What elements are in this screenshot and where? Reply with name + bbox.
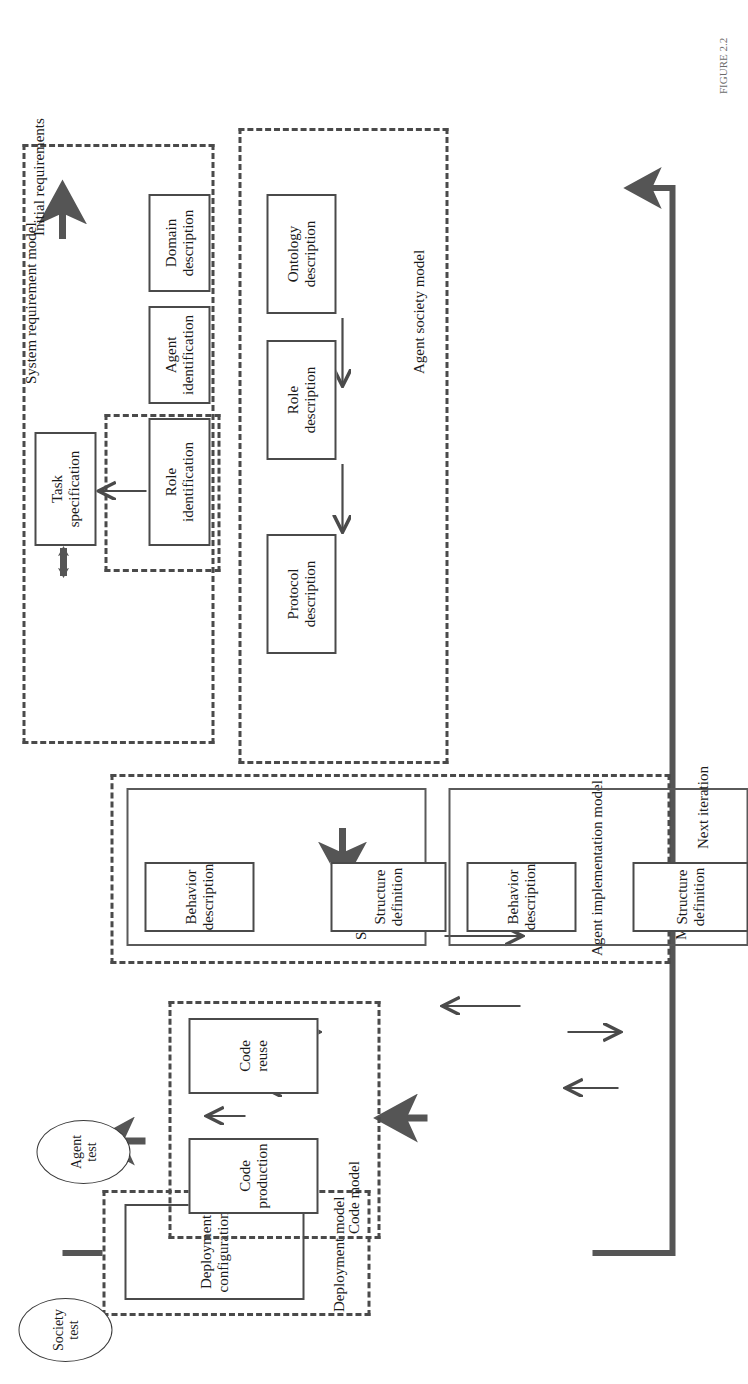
node-code-production[interactable]: Code production [188, 1138, 318, 1214]
group-label-system-requirement-model: System requirement model [22, 222, 39, 384]
node-code-reuse[interactable]: Code reuse [188, 1018, 318, 1094]
node-agent-identification[interactable]: Agent identification [148, 306, 210, 404]
group-label-code-model: Code model [345, 1161, 362, 1234]
node-ma-structure-definition[interactable]: Structure definition [632, 862, 748, 932]
node-ontology-description[interactable]: Ontology description [266, 194, 336, 314]
node-domain-description[interactable]: Domain description [148, 194, 210, 292]
ellipse-agent-test: Agent test [36, 1120, 130, 1184]
label-next-iteration: Next iteration [694, 766, 711, 849]
label-initial-requirements: Initial requirements [30, 118, 47, 236]
arrow-next-iteration [592, 188, 672, 1253]
figure-caption: FIGURE 2.2 [716, 38, 728, 94]
group-label-agent-society-model: Agent society model [410, 250, 427, 374]
node-protocol-description[interactable]: Protocol description [266, 534, 336, 654]
node-ma-behavior-description[interactable]: Behavior description [466, 862, 576, 932]
node-sa-behavior-description[interactable]: Behavior description [144, 862, 254, 932]
ellipse-society-test: Society test [18, 1298, 112, 1362]
node-role-description[interactable]: Role description [266, 340, 336, 460]
node-sa-structure-definition[interactable]: Structure definition [330, 862, 446, 932]
node-task-specification[interactable]: Task specification [34, 432, 96, 546]
group-role-task-link [104, 414, 220, 572]
